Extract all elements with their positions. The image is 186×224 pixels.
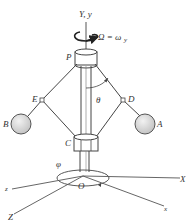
joint-d xyxy=(121,98,125,102)
axis-X-line xyxy=(83,176,180,178)
lower-right-link xyxy=(96,100,123,137)
label-x: x xyxy=(163,205,168,213)
label-z: z xyxy=(4,185,8,193)
label-e: E xyxy=(31,94,38,104)
vertical-shaft xyxy=(81,66,91,136)
label-Z: Z xyxy=(8,212,14,222)
label-X: X xyxy=(179,174,186,184)
top-collar-p xyxy=(75,49,97,68)
label-vertical-axis: Y, y xyxy=(79,9,92,19)
phi-arrow-icon xyxy=(98,183,101,187)
joint-e xyxy=(40,98,44,102)
label-angular-velocity-subscript: y xyxy=(123,36,128,44)
label-p: P xyxy=(65,52,72,62)
label-o: O xyxy=(78,181,85,191)
axis-Z-line xyxy=(14,176,83,214)
label-theta: θ xyxy=(96,95,101,105)
label-b: B xyxy=(3,119,9,129)
bottom-collar-c xyxy=(74,134,98,151)
label-d: D xyxy=(127,94,135,104)
axis-x-line xyxy=(83,176,164,206)
axis-z-line xyxy=(12,176,83,189)
label-c: C xyxy=(65,138,72,148)
label-angular-velocity: Ω = ω xyxy=(98,32,121,42)
ball-a xyxy=(135,114,155,134)
upper-left-arm xyxy=(42,64,77,100)
theta-angle-arc xyxy=(86,78,108,88)
flyball-governor-diagram: Y, y Ω = ω y P E D B A θ C φ O X x z Z xyxy=(0,0,186,224)
lower-shaft xyxy=(80,151,89,172)
lower-left-link xyxy=(42,100,76,137)
label-a: A xyxy=(156,119,163,129)
ball-b xyxy=(11,114,31,134)
label-phi: φ xyxy=(56,159,61,169)
